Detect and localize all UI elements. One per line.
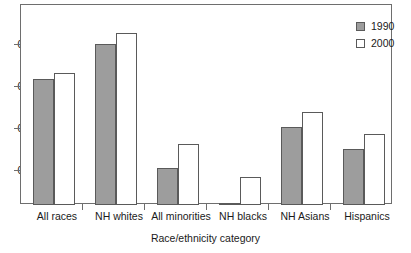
plot-area (20, 4, 392, 204)
bar-1990-hispanics (343, 149, 364, 205)
legend-item-2000: 2000 (356, 36, 394, 50)
bar-2000-all-races (54, 73, 75, 205)
bar-chart: 0.7 0.6 0.5 0.4 All races NH whites All … (0, 0, 411, 253)
legend-item-1990: 1990 (356, 19, 394, 33)
bar-1990-nh-whites (95, 44, 116, 205)
legend-label-2000: 2000 (371, 38, 394, 49)
bar-2000-nh-blacks (240, 177, 261, 205)
bar-2000-nh-whites (116, 33, 137, 205)
legend-swatch-open-white-icon (356, 39, 365, 48)
legend-label-1990: 1990 (371, 21, 394, 32)
bar-1990-all-minorities (157, 168, 178, 205)
bar-1990-nh-blacks (219, 203, 240, 205)
legend: 1990 2000 (356, 19, 394, 53)
bar-2000-all-minorities (178, 144, 199, 205)
bar-1990-nh-asians (281, 127, 302, 205)
bar-2000-hispanics (364, 134, 385, 205)
x-axis-title: Race/ethnicity category (0, 232, 411, 244)
bar-1990-all-races (33, 79, 54, 205)
bar-2000-nh-asians (302, 112, 323, 205)
x-category-label-hispanics: Hispanics (331, 210, 403, 222)
legend-swatch-filled-gray-icon (356, 22, 365, 31)
